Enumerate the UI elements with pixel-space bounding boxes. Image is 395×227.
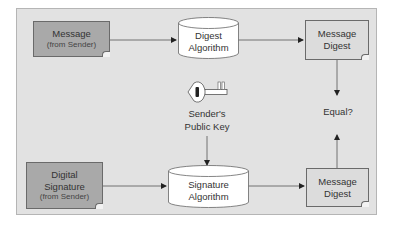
page-fold-icon — [361, 201, 369, 207]
md-bottom-line1: Message — [318, 176, 357, 188]
digest-algorithm-line2: Algorithm — [178, 42, 239, 54]
message-label: Message — [52, 28, 91, 40]
digital-signature-document: Digital Signature (from Sender) — [26, 162, 103, 209]
md-bottom-line2: Digest — [324, 188, 351, 200]
page-fold-icon — [95, 203, 103, 209]
page-fold-icon — [102, 51, 110, 57]
public-key-line1: Sender's — [172, 108, 242, 121]
public-key-label: Sender's Public Key — [172, 108, 242, 134]
digital-signature-source: (from Sender) — [40, 192, 89, 202]
signature-algorithm-cylinder: Signature Algorithm — [168, 165, 249, 208]
public-key-line2: Public Key — [172, 121, 242, 134]
message-digest-top: Message Digest — [305, 20, 369, 60]
page-fold-icon — [361, 54, 369, 60]
signature-algorithm-line1: Signature — [168, 179, 249, 191]
signature-algorithm-line2: Algorithm — [168, 191, 249, 203]
equal-comparison-label: Equal? — [312, 106, 364, 119]
md-top-line1: Message — [318, 28, 357, 40]
message-digest-bottom: Message Digest — [306, 168, 369, 207]
message-document: Message (from Sender) — [33, 21, 110, 57]
digest-algorithm-cylinder: Digest Algorithm — [178, 17, 239, 59]
digital-signature-line2: Signature — [44, 181, 85, 193]
digest-algorithm-line1: Digest — [178, 30, 239, 42]
md-top-line2: Digest — [324, 40, 351, 52]
message-source-label: (from Sender) — [47, 40, 96, 50]
key-icon — [186, 78, 230, 104]
digital-signature-line1: Digital — [51, 169, 77, 181]
